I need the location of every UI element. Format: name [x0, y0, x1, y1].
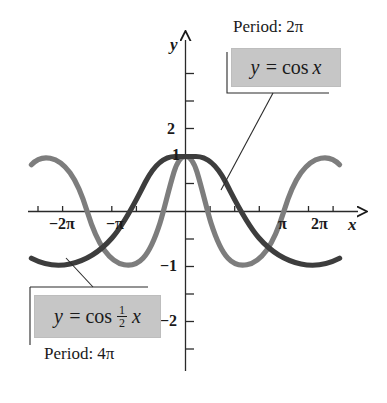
y-tick-label-2: 2 — [167, 121, 175, 137]
fraction-numerator: 1 — [117, 304, 127, 316]
expr-fn-cos-half-x: cos — [85, 305, 112, 328]
x-axis-label: x — [348, 216, 357, 233]
fraction-denominator: 2 — [117, 316, 127, 329]
y-tick-label-1: 1 — [172, 147, 180, 163]
y-tick-label-neg-1: −1 — [160, 258, 177, 274]
expression-cos-x: y = cos x — [249, 56, 324, 79]
period-label-cos-half-x: Period: 4π — [44, 344, 114, 364]
callout-box-cos-half-x[interactable]: y = cos 1 2 x — [34, 295, 161, 338]
expr-arg-cos-half-x: x — [132, 305, 141, 328]
x-tick-label-neg-pi: −π — [106, 216, 124, 232]
expr-arg-cos-x: x — [313, 56, 322, 79]
y-axis-label: y — [170, 36, 178, 53]
callout-box-cos-x[interactable]: y = cos x — [231, 48, 341, 87]
expr-lhs-cos-x: y = — [251, 56, 278, 79]
x-tick-label-neg-2pi: −2π — [49, 216, 75, 232]
expr-fn-cos-x: cos — [282, 56, 309, 79]
period-label-cos-x: Period: 2π — [233, 17, 303, 37]
x-tick-label-pi: π — [278, 216, 287, 232]
y-tick-label-neg-2: −2 — [160, 313, 177, 329]
x-tick-label-2pi: 2π — [311, 216, 328, 232]
expression-cos-half-x: y = cos 1 2 x — [52, 304, 143, 329]
expr-lhs-cos-half-x: y = — [54, 305, 81, 328]
figure-canvas: −2π −π π 2π 2 1 −1 −2 y x Period: 2π y =… — [0, 0, 387, 403]
expr-fraction-one-half: 1 2 — [117, 304, 127, 329]
